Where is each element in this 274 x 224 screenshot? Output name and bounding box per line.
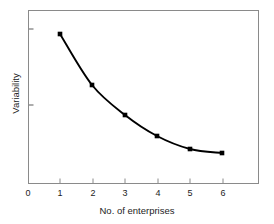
x-axis-tick-label-3: 3 bbox=[117, 188, 133, 198]
chart-figure: 0123456 No. of enterprises Variability bbox=[0, 0, 274, 224]
x-axis-tick-label-4: 4 bbox=[150, 188, 166, 198]
x-axis-tick-label-5: 5 bbox=[182, 188, 198, 198]
x-axis-tick-label-6: 6 bbox=[215, 188, 231, 198]
y-axis-title: Variability bbox=[10, 49, 21, 139]
x-axis-tick-label-2: 2 bbox=[85, 188, 101, 198]
x-axis-tick-label-1: 1 bbox=[52, 188, 68, 198]
plot-frame bbox=[28, 10, 259, 184]
x-axis-title: No. of enterprises bbox=[0, 205, 274, 216]
x-axis-tick-label-0: 0 bbox=[20, 188, 36, 198]
